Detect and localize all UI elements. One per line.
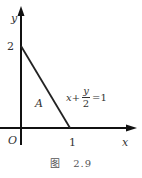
equation-equals: = <box>92 92 100 103</box>
x-tick-label: 1 <box>69 137 76 148</box>
figure-caption: 图 2.9 <box>0 155 142 170</box>
y-axis-arrow-icon <box>18 6 25 16</box>
equation-plus: + <box>72 92 80 103</box>
boundary-line <box>21 46 70 128</box>
fraction-numerator: y <box>83 86 89 96</box>
y-axis-label: y <box>11 13 17 24</box>
x-axis-label: x <box>122 137 128 148</box>
caption-prefix: 图 <box>50 158 61 169</box>
x-axis-arrow-icon <box>126 125 137 132</box>
line-equation: x + y 2 = 1 <box>66 86 107 109</box>
origin-label: O <box>8 135 17 146</box>
coordinate-figure: y 2 O 1 x A x + y 2 = 1 图 2.9 <box>0 0 142 178</box>
region-label: A <box>35 98 43 109</box>
y-tick-label: 2 <box>7 41 14 52</box>
fraction-denominator: 2 <box>83 99 89 109</box>
caption-number: 2.9 <box>73 158 92 169</box>
equation-rhs: 1 <box>100 92 106 103</box>
equation-fraction: y 2 <box>82 86 90 109</box>
